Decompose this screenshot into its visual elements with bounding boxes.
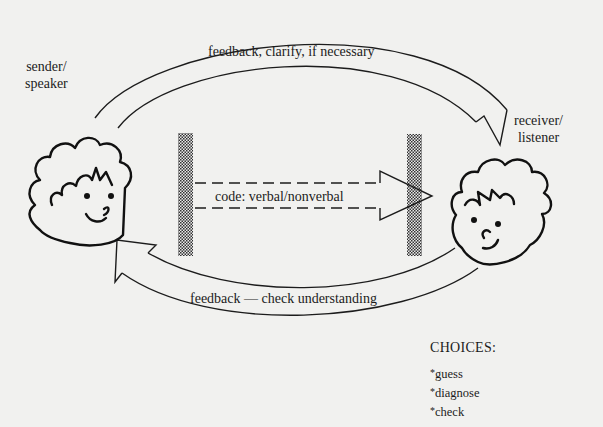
diagram-canvas — [0, 0, 603, 427]
sender-label: sender/ speaker — [25, 58, 68, 92]
choice-item: check — [430, 402, 479, 421]
right-barrier — [407, 134, 422, 256]
receiver-label-line1: receiver/ — [514, 112, 563, 129]
receiver-label: receiver/ listener — [514, 112, 563, 146]
choices-list: guess diagnose check — [430, 364, 479, 421]
top-arrow-label: feedback, clarify, if necessary — [208, 43, 375, 60]
sender-label-line2: speaker — [25, 75, 68, 92]
choices-title: CHOICES: — [430, 340, 496, 356]
receiver-label-line2: listener — [514, 129, 563, 146]
bottom-arrow-label: feedback — check understanding — [190, 290, 377, 307]
code-arrow-label: code: verbal/nonverbal — [215, 188, 344, 205]
sender-face-icon — [30, 138, 131, 246]
sender-label-line1: sender/ — [25, 58, 68, 75]
choice-item: guess — [430, 364, 479, 383]
choice-item: diagnose — [430, 383, 479, 402]
receiver-face-icon — [452, 160, 551, 265]
left-barrier — [178, 133, 193, 256]
